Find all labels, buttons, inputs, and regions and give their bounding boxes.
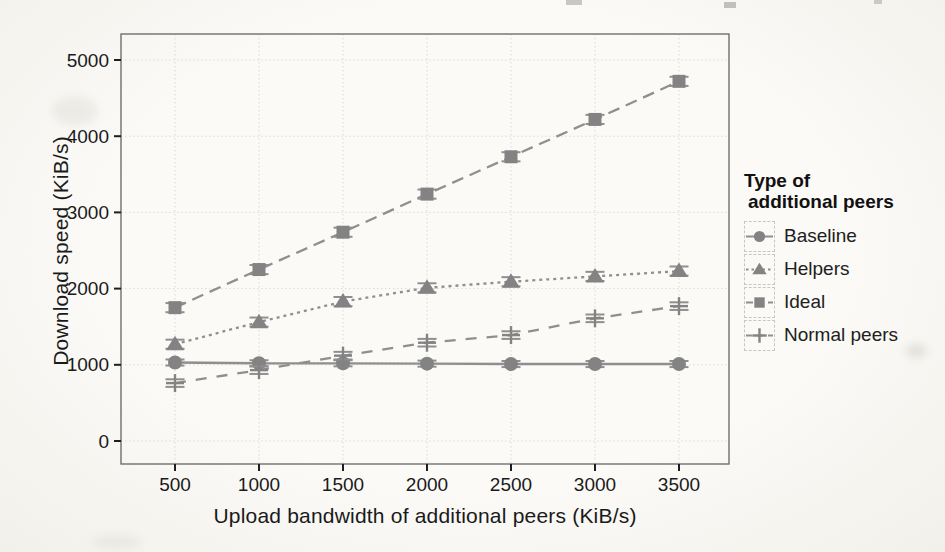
- legend-title: Type of additional peers: [744, 170, 940, 213]
- square-marker: [505, 150, 518, 163]
- triangle-marker: [670, 263, 688, 278]
- legend-item-helpers: Helpers: [744, 253, 940, 286]
- x-tick-label: 1000: [238, 474, 280, 495]
- x-tick-label: 3000: [574, 474, 616, 495]
- legend-key-graphic: [745, 321, 774, 350]
- legend-key-square-icon: [744, 287, 775, 318]
- y-tick-label: 5000: [67, 50, 109, 71]
- x-axis-title: Upload bandwidth of additional peers (Ki…: [121, 504, 729, 528]
- legend-label: Baseline: [784, 225, 857, 247]
- x-tick-label: 2500: [490, 474, 532, 495]
- legend-label: Normal peers: [784, 324, 898, 346]
- circle-marker: [588, 357, 602, 371]
- scan-artifact: [92, 536, 142, 548]
- scan-artifact: [874, 0, 882, 4]
- legend-label: Helpers: [784, 258, 849, 280]
- triangle-marker: [418, 279, 436, 294]
- legend-key-circle-icon: [744, 221, 775, 252]
- x-tick-label: 2000: [406, 474, 448, 495]
- circle-marker: [504, 357, 518, 371]
- legend: Type of additional peers Baseline Helper…: [744, 170, 940, 352]
- legend-item-ideal: Ideal: [744, 286, 940, 319]
- legend-key-graphic: [745, 255, 774, 284]
- triangle-marker: [502, 273, 520, 288]
- plot-panel-border: [121, 34, 729, 464]
- x-tick-label: 1500: [322, 474, 364, 495]
- triangle-marker: [166, 336, 184, 351]
- y-tick-label: 2000: [67, 278, 109, 299]
- x-tick-label: 3500: [658, 474, 700, 495]
- series-baseline: [166, 356, 689, 372]
- legend-title-line2: additional peers: [744, 191, 940, 212]
- triangle-marker: [586, 268, 604, 283]
- y-tick-label: 1000: [67, 354, 109, 375]
- y-axis-title: Download speed (KiB/s): [49, 121, 73, 381]
- legend-title-line1: Type of: [744, 170, 810, 191]
- square-marker: [673, 75, 686, 88]
- circle-marker: [754, 230, 765, 241]
- circle-marker: [168, 356, 182, 370]
- square-marker: [421, 188, 434, 201]
- square-marker: [253, 263, 266, 276]
- x-tick-label: 500: [159, 474, 191, 495]
- square-marker: [169, 301, 182, 314]
- scan-artifact: [566, 0, 582, 5]
- scan-artifact: [52, 96, 98, 126]
- square-marker: [589, 113, 602, 126]
- circle-marker: [672, 357, 686, 371]
- legend-key-graphic: [745, 222, 774, 251]
- y-tick-label: 4000: [67, 126, 109, 147]
- triangle-marker: [334, 293, 352, 308]
- square-marker: [337, 226, 350, 239]
- legend-items: Baseline Helpers Ideal Normal peers: [744, 220, 940, 352]
- scan-artifact: [905, 344, 927, 358]
- scan-artifact: [724, 2, 736, 8]
- legend-label: Ideal: [784, 291, 825, 313]
- legend-key-triangle-icon: [744, 254, 775, 285]
- legend-key-graphic: [745, 288, 774, 317]
- legend-item-baseline: Baseline: [744, 220, 940, 253]
- y-tick-label: 3000: [67, 202, 109, 223]
- square-marker: [754, 297, 764, 307]
- figure: 0100020003000400050005001000150020002500…: [0, 0, 945, 552]
- legend-key-plus-icon: [744, 320, 775, 351]
- y-tick-label: 0: [98, 431, 109, 452]
- circle-marker: [420, 357, 434, 371]
